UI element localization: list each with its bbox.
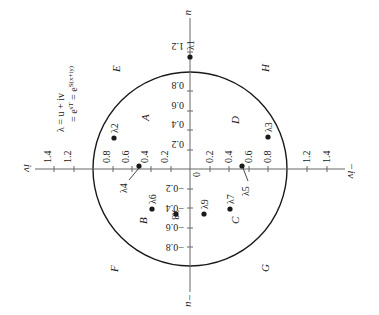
axis-label-iv: iv — [22, 164, 34, 172]
label-lambda-9: λ9 — [199, 199, 210, 209]
v-tick-label-right: 0.6 — [243, 151, 254, 164]
u-tick-label: 1.2 — [172, 41, 185, 52]
v-tick-label-left: 0.8 — [101, 151, 112, 164]
origin-label: 0 — [191, 172, 202, 177]
point-lambda-9 — [201, 211, 206, 216]
region-label-b: B — [137, 217, 149, 224]
u-tick-label-neg: −0.8 — [166, 242, 184, 253]
v-tick-label-left: 1.4 — [42, 151, 53, 164]
u-tick-label-neg: −0.6 — [166, 222, 184, 233]
v-tick-label-left: 0.6 — [120, 151, 131, 164]
u-tick-label-neg: −0.2 — [166, 183, 184, 194]
point-lambda-1 — [187, 54, 192, 59]
u-tick-label: 0.4 — [172, 119, 185, 130]
region-label-c: C — [229, 216, 241, 224]
region-label-g: G — [259, 264, 271, 272]
point-lambda-6 — [149, 206, 154, 211]
region-label-d: D — [229, 116, 241, 125]
point-lambda-2 — [111, 135, 116, 140]
label-lambda-1: λ1 — [185, 40, 196, 50]
v-tick-label-right: 0.8 — [262, 151, 273, 164]
formula-line-1: λ = u + iv — [55, 93, 66, 132]
leader-lambda-5 — [243, 168, 248, 181]
v-tick-label-right: 1.2 — [301, 151, 312, 164]
point-lambda-3 — [265, 134, 270, 139]
region-label-e: E — [110, 65, 122, 73]
point-lambda-4 — [136, 163, 141, 168]
label-lambda-8: λ8 — [170, 210, 181, 220]
label-lambda-6: λ6 — [147, 194, 158, 204]
formula-line-2: = esT = eS(x+iy) — [67, 65, 79, 122]
label-lambda-7: λ7 — [225, 194, 236, 204]
region-label-a: A — [139, 114, 151, 122]
u-tick-label: 0.2 — [172, 139, 185, 150]
v-tick-label-left: 0.4 — [139, 151, 150, 164]
axis-label-neg-u: −u — [184, 294, 196, 307]
label-lambda-4: λ4 — [118, 183, 129, 193]
v-tick-label-left: 1.2 — [62, 151, 73, 164]
v-tick-label-right: 0.2 — [204, 151, 215, 164]
u-tick-label: 0.8 — [172, 80, 185, 91]
axis-label-u: u — [184, 10, 196, 16]
point-lambda-7 — [227, 206, 232, 211]
leader-lambda-4 — [129, 168, 139, 180]
region-label-h: H — [259, 63, 271, 73]
label-lambda-3: λ3 — [263, 122, 274, 132]
label-lambda-2: λ2 — [109, 123, 120, 133]
v-tick-label-left: 0.2 — [159, 151, 170, 164]
v-tick-label-right: 1.4 — [321, 151, 332, 164]
region-label-f: F — [108, 265, 120, 273]
v-tick-label-right: 0.4 — [223, 151, 234, 164]
u-tick-label: 0.6 — [172, 100, 185, 111]
axis-label-neg-iv: −iv — [346, 163, 358, 178]
z-plane-unit-circle-diagram: u −u iv −iv 0 0.2 0.4 0.6 0.8 1.2 −0.2 −… — [0, 0, 379, 315]
label-lambda-5: λ5 — [240, 186, 251, 196]
point-lambda-5 — [239, 163, 244, 168]
